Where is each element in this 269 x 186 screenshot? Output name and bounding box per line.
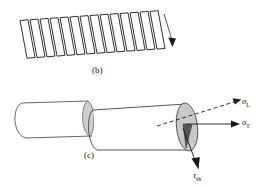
- cylinder-left-body: [22, 101, 92, 138]
- sigma-T-label: σT: [242, 117, 250, 129]
- sigma-L-label: σL: [242, 96, 250, 108]
- cylinder-right-half: [88, 104, 190, 153]
- sigma-T-subscript: T: [246, 123, 249, 129]
- panel-b-accordion: [20, 11, 165, 59]
- sigma-L-subscript: L: [246, 102, 249, 108]
- panel-c-caption: (c): [84, 150, 94, 160]
- figure-container: (b) (c) σL σT τsh: [0, 0, 269, 186]
- panel-b-caption: (b): [92, 65, 103, 75]
- figure-svg: [0, 0, 269, 186]
- tau-subscript: sh: [196, 176, 201, 182]
- tau-sh-label: τsh: [193, 170, 201, 182]
- cylinder-right-body: [93, 104, 190, 153]
- shear-direction-arrow: [164, 14, 176, 47]
- cylinder-left-half: [15, 101, 92, 138]
